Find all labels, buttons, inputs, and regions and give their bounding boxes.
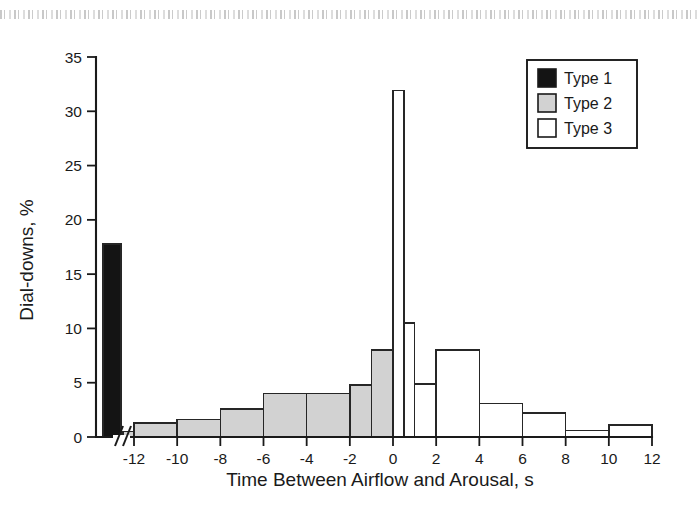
histogram-bar	[523, 413, 566, 437]
x-axis-title: Time Between Airflow and Arousal, s	[226, 469, 534, 490]
x-tick-label: 4	[475, 450, 484, 467]
x-tick-label: -2	[343, 450, 357, 467]
y-tick-label: 15	[65, 266, 82, 283]
x-tick-label: -4	[300, 450, 314, 467]
legend-label: Type 3	[564, 120, 612, 137]
histogram-bar	[404, 323, 415, 437]
x-tick-label: -10	[166, 450, 189, 467]
y-axis-title: Dial-downs, %	[16, 199, 37, 321]
legend-swatch	[538, 69, 556, 87]
histogram-figure: 05101520253035-12-10-8-6-4-2024681012 Ti…	[0, 0, 700, 505]
x-tick-label: -6	[257, 450, 271, 467]
histogram-bar	[177, 420, 220, 437]
histogram-bar	[393, 91, 404, 437]
histogram-bar	[307, 394, 350, 437]
y-tick-label: 10	[65, 320, 83, 337]
histogram-bar	[415, 384, 437, 437]
x-tick-label: -12	[123, 450, 145, 467]
legend-label: Type 1	[564, 70, 612, 87]
legend-label: Type 2	[564, 95, 612, 112]
y-tick-label: 35	[65, 49, 82, 66]
histogram-bar	[220, 409, 263, 437]
y-tick-label: 0	[73, 429, 82, 446]
y-tick-label: 25	[65, 157, 82, 174]
histogram-bar	[371, 350, 393, 437]
histogram-bar	[264, 394, 307, 437]
histogram-bar	[609, 425, 652, 437]
histogram-bar	[479, 403, 522, 437]
x-tick-label: 10	[600, 450, 618, 467]
histogram-bar	[350, 385, 372, 437]
x-tick-label: 0	[389, 450, 398, 467]
x-tick-label: 2	[432, 450, 441, 467]
x-tick-label: 6	[518, 450, 527, 467]
histogram-bar	[103, 244, 121, 437]
chart-legend: Type 1Type 2Type 3	[527, 60, 637, 148]
legend-swatch	[538, 119, 556, 137]
chart-canvas: 05101520253035-12-10-8-6-4-2024681012 Ti…	[0, 0, 700, 505]
x-tick-label: 8	[561, 450, 570, 467]
x-tick-label: 12	[643, 450, 660, 467]
histogram-bar	[436, 350, 479, 437]
y-tick-label: 20	[65, 211, 83, 228]
histogram-bar	[134, 423, 177, 437]
x-tick-label: -8	[213, 450, 227, 467]
legend-swatch	[538, 94, 556, 112]
y-tick-label: 30	[65, 103, 83, 120]
y-tick-label: 5	[73, 374, 82, 391]
